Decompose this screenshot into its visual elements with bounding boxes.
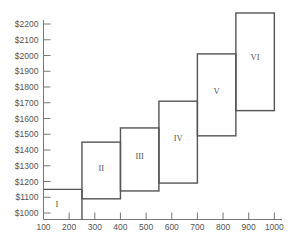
x-tick-label: 400	[113, 222, 127, 232]
box-label: I	[56, 199, 59, 209]
y-tick-label: $1700	[15, 98, 39, 108]
y-tick-label: $1600	[15, 114, 39, 124]
y-tick-label: $2200	[15, 19, 39, 29]
y-tick-label: $1900	[15, 66, 39, 76]
x-tick-label: 200	[62, 222, 76, 232]
box-vi: VI	[236, 13, 274, 111]
y-tick-label: $1000	[15, 208, 39, 218]
step-box-chart: $1000$1100$1200$1300$1400$1500$1600$1700…	[0, 0, 299, 239]
box-iii: III	[120, 128, 158, 191]
box-label: IV	[174, 133, 184, 143]
x-tick-label: 1000	[265, 222, 284, 232]
y-tick-label: $1100	[15, 192, 38, 202]
box-ii: II	[82, 142, 120, 199]
x-tick-label: 500	[139, 222, 153, 232]
box-label: III	[135, 151, 144, 161]
y-tick-label: $1800	[15, 82, 39, 92]
x-tick-label: 900	[242, 222, 256, 232]
y-tick-label: $1300	[15, 161, 39, 171]
y-tick-label: $1200	[15, 177, 39, 187]
boxes-group: IIIIIIIVVVI	[44, 13, 275, 220]
box-label: VI	[251, 52, 260, 62]
x-tick-label: 300	[88, 222, 102, 232]
y-tick-label: $2000	[15, 51, 39, 61]
box-iv: IV	[159, 101, 197, 183]
box-v: V	[197, 54, 235, 136]
x-tick-label: 100	[36, 222, 50, 232]
x-tick-label: 700	[190, 222, 204, 232]
box-i: I	[44, 189, 82, 219]
y-tick-label: $2100	[15, 35, 39, 45]
x-tick-label: 800	[216, 222, 230, 232]
box-outline	[44, 189, 82, 219]
box-label: II	[98, 163, 104, 173]
box-label: V	[214, 86, 221, 96]
y-tick-label: $1400	[15, 145, 39, 155]
x-axis: 1002003004005006007008009001000	[36, 213, 284, 233]
x-tick-label: 600	[165, 222, 179, 232]
y-tick-label: $1500	[15, 129, 39, 139]
